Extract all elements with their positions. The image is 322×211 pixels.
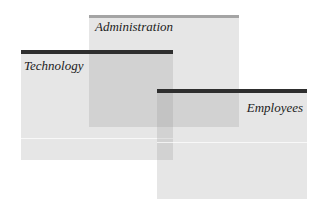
panel-label-employees: Employees: [247, 100, 303, 116]
panel-label-technology: Technology: [24, 58, 83, 74]
divider: [157, 142, 307, 143]
panel-employees: Employees: [157, 89, 307, 199]
panel-header-bar: [89, 15, 239, 18]
panel-label-administration: Administration: [95, 19, 173, 35]
panel-technology: Technology: [21, 50, 173, 160]
panel-header-bar: [21, 50, 173, 54]
divider: [21, 138, 173, 139]
panel-header-bar: [157, 89, 307, 93]
